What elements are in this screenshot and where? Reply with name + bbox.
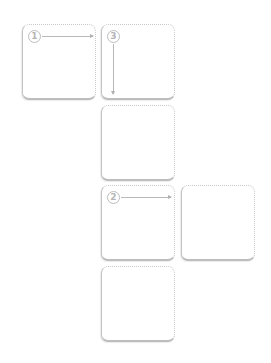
tile-empty-e [181,185,255,261]
arrow-down-icon [113,44,114,94]
arrow-right-icon [121,197,171,198]
arrow-right-icon [42,36,93,37]
tile-step-2: 2 [101,185,175,261]
step-number-badge: 3 [107,30,120,43]
tile-step-3: 3 [101,24,175,100]
tile-step-1: 1 [22,24,96,100]
step-number-badge: 1 [28,30,41,43]
tile-empty-c [101,105,175,181]
step-number-badge: 2 [107,191,120,204]
tile-empty-f [101,266,175,342]
